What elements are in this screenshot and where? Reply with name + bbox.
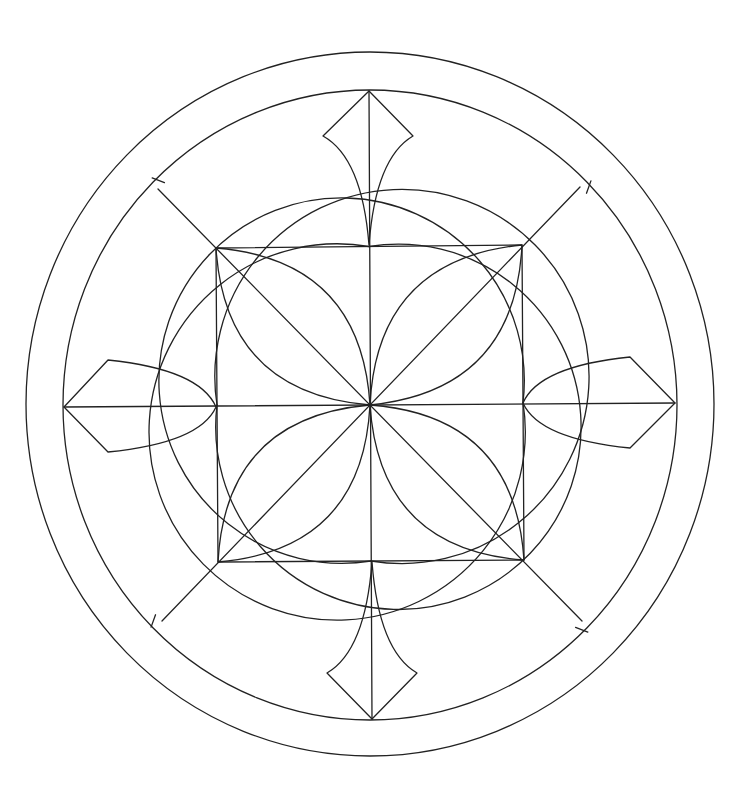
rosette-figure <box>0 0 744 803</box>
kite-top <box>323 91 413 245</box>
tick-bl <box>151 615 155 627</box>
lobe-tl <box>216 244 581 609</box>
rosette-svg <box>0 0 744 803</box>
lobe-br <box>159 198 524 563</box>
